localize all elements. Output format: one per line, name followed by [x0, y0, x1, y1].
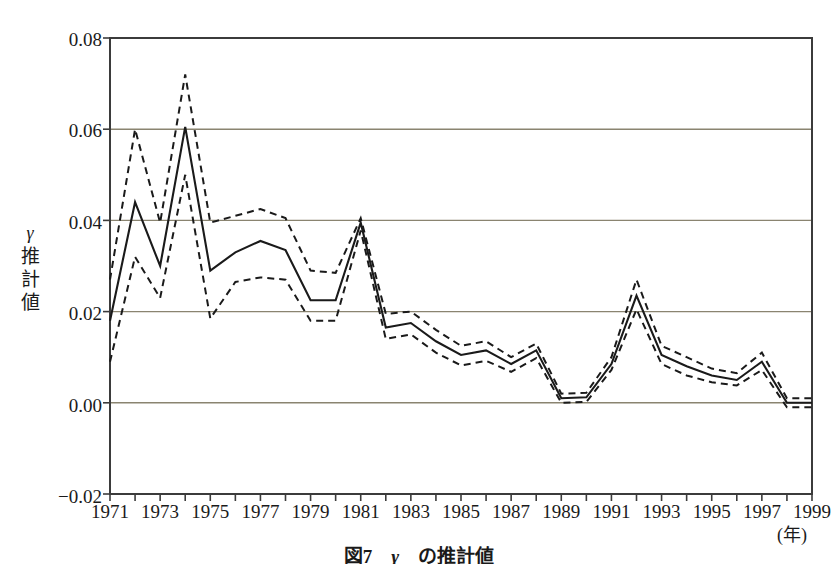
figure-caption: 図7 γ の推計値 — [0, 546, 838, 564]
figure-caption-prefix: 図7 — [344, 546, 373, 564]
figure-root: γ 推 計 値 0.08 0.06 0.04 0.02 0.00 −0.02 1… — [0, 0, 838, 564]
figure-caption-symbol: γ — [391, 546, 399, 564]
x-tick-label-group: 1971197319751977197919811983198519871989… — [0, 0, 838, 564]
x-tick-label-1999: 1999 — [777, 502, 838, 521]
x-axis-unit-label: (年) — [777, 526, 807, 544]
figure-caption-suffix: の推計値 — [418, 546, 494, 564]
